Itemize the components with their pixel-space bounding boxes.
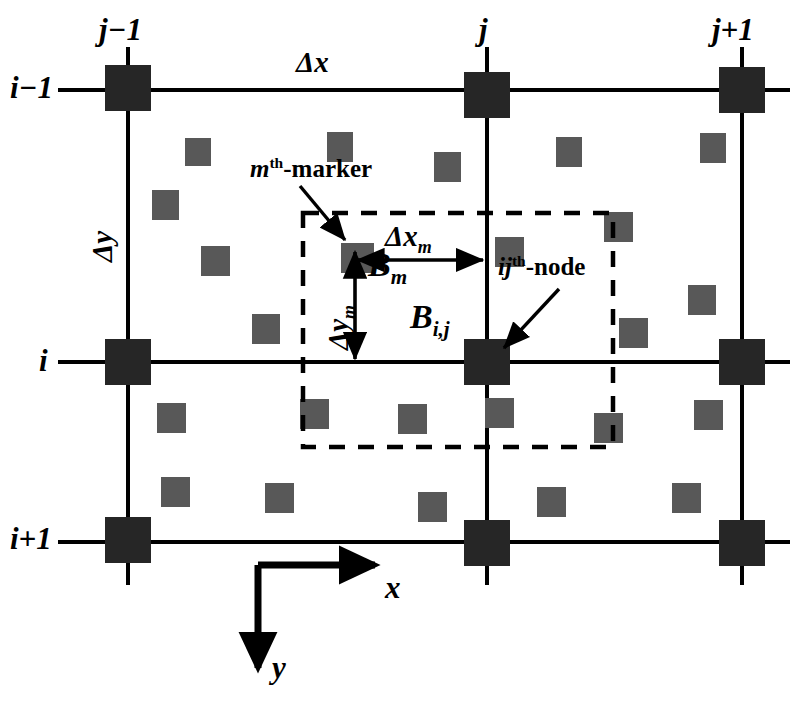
delta-x-m-sub: m bbox=[418, 237, 432, 257]
grid-node bbox=[105, 65, 151, 111]
mth-marker-prefix: m bbox=[250, 155, 269, 182]
grid-node bbox=[105, 517, 151, 563]
delta-x-label: Δx bbox=[296, 48, 329, 77]
marker-particle bbox=[594, 413, 623, 443]
B-node-sub: i,j bbox=[433, 317, 450, 341]
x-axis-label: x bbox=[385, 572, 401, 603]
ijth-node-superscript: th bbox=[512, 252, 526, 269]
marker-particle bbox=[201, 246, 230, 276]
marker-particle bbox=[157, 403, 186, 433]
marker-particle bbox=[700, 133, 726, 163]
marker-particle bbox=[556, 137, 582, 167]
ijth-node-callout: ijth-node bbox=[498, 253, 585, 279]
field-label-B-node: Bi,j bbox=[410, 300, 450, 340]
marker-particle bbox=[185, 138, 211, 166]
ijth-node-leader-arrow bbox=[504, 289, 559, 348]
column-label-j: j bbox=[479, 14, 488, 45]
marker-particle bbox=[418, 492, 447, 522]
marker-particle bbox=[252, 314, 280, 344]
delta-y-label: Δy bbox=[88, 231, 117, 262]
B-node-base: B bbox=[410, 298, 433, 335]
marker-particle bbox=[434, 152, 461, 182]
B-marker-base: B bbox=[368, 246, 391, 283]
marker-particle bbox=[152, 190, 179, 220]
marker-particle bbox=[161, 477, 190, 507]
y-axis-label: y bbox=[272, 652, 286, 683]
marker-particle bbox=[694, 400, 723, 430]
marker-particle bbox=[672, 483, 701, 513]
field-label-B-marker: Bm bbox=[368, 248, 407, 288]
column-label-j-plus-1: j+1 bbox=[712, 14, 754, 45]
delta-y-m-var: y bbox=[322, 319, 354, 332]
grid-node bbox=[464, 72, 510, 118]
marker-particle bbox=[604, 212, 633, 242]
marker-particle bbox=[537, 487, 566, 517]
grid-diagram-svg bbox=[0, 0, 803, 706]
row-label-i-plus-1: i+1 bbox=[10, 523, 52, 554]
grid-node bbox=[719, 520, 765, 566]
delta-y-m-sub: m bbox=[339, 305, 359, 319]
marker-particle bbox=[485, 398, 514, 428]
mth-marker-superscript: th bbox=[269, 154, 283, 171]
grid-node bbox=[719, 67, 765, 113]
mth-marker-suffix: -marker bbox=[283, 155, 372, 182]
B-marker-sub: m bbox=[391, 265, 407, 289]
marker-particle bbox=[398, 404, 427, 434]
grid-node bbox=[719, 339, 765, 385]
marker-particle bbox=[265, 483, 294, 513]
row-label-i-minus-1: i−1 bbox=[10, 72, 53, 103]
mth-marker-callout: mth-marker bbox=[250, 155, 372, 181]
row-label-i: i bbox=[39, 345, 48, 376]
column-label-j-minus-1: j−1 bbox=[99, 14, 142, 45]
grid-node bbox=[464, 520, 510, 566]
delta-y-m-delta: Δ bbox=[322, 332, 354, 350]
marker-particle bbox=[688, 285, 716, 315]
figure-canvas: j−1 j j+1 i−1 i i+1 Δx Δy Δxm Δym mth-ma… bbox=[0, 0, 803, 706]
ijth-node-suffix: -node bbox=[526, 253, 586, 280]
ijth-node-prefix: ij bbox=[498, 253, 512, 280]
grid-node bbox=[464, 339, 510, 385]
delta-y-m-label: Δym bbox=[324, 305, 358, 350]
marker-particle bbox=[619, 318, 648, 348]
grid-node bbox=[105, 339, 151, 385]
